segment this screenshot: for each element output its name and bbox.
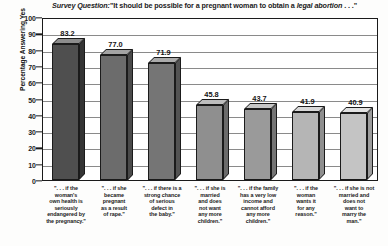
y-tick-label: 60 xyxy=(10,80,36,87)
x-axis-category-line: man." xyxy=(327,218,381,225)
x-axis-category-line: any more xyxy=(231,211,285,218)
bar-side-face xyxy=(271,103,277,180)
y-tick-label: 50 xyxy=(10,96,36,103)
x-axis-category-line: not want xyxy=(183,205,237,212)
x-axis-category-line: ". . . if she xyxy=(87,185,141,192)
bar: 43.7 xyxy=(244,109,271,180)
chart-title-quote-open: "It should be possible for a pregnant wo… xyxy=(110,1,297,10)
x-axis-category-line: defect in xyxy=(135,205,189,212)
x-axis-category-line: wants it xyxy=(279,198,333,205)
x-axis-category-line: as a result xyxy=(87,205,141,212)
x-axis-category-line: does not xyxy=(327,198,381,205)
x-axis-category-label: ". . . if thewoman'sown health isserious… xyxy=(39,185,93,225)
bar: 83.2 xyxy=(52,44,79,180)
x-axis-category-line: seriously xyxy=(39,205,93,212)
y-tick-label: 90 xyxy=(10,31,36,38)
y-tick-label: 30 xyxy=(10,129,36,136)
chart-title-emphasis: legal abortion xyxy=(297,1,343,10)
x-axis-category-line: own health is xyxy=(39,198,93,205)
x-axis-category-label: ". . . if shebecamepregnantas a resultof… xyxy=(87,185,141,218)
gridline xyxy=(43,35,377,36)
bar-value-label: 71.9 xyxy=(142,48,186,57)
bar-side-face xyxy=(367,107,373,180)
bar-side-face xyxy=(127,48,133,180)
x-axis-category-line: married and xyxy=(327,192,381,199)
y-tick-label: 80 xyxy=(10,47,36,54)
plot-area: 83.277.071.945.843.741.940.9 xyxy=(42,18,378,181)
x-axis-category-label: ". . . if she is notmarried anddoes notw… xyxy=(327,185,381,225)
x-axis-category-label: ". . . if there is astrong chanceof seri… xyxy=(135,185,189,218)
bar-value-label: 77.0 xyxy=(94,40,138,49)
bar-value-label: 45.8 xyxy=(190,90,234,99)
x-axis-category-line: ". . . if the family xyxy=(231,185,285,192)
survey-bar-chart: Survey Question:"It should be possible f… xyxy=(0,0,388,246)
bar: 77.0 xyxy=(100,55,127,181)
x-axis-category-line: of rape." xyxy=(87,211,141,218)
x-axis-category-line: endangered by xyxy=(39,211,93,218)
x-axis-category-line: became xyxy=(87,192,141,199)
x-axis-category-line: woman's xyxy=(39,192,93,199)
x-axis-category-line: the baby." xyxy=(135,211,189,218)
gridline xyxy=(43,84,377,85)
bar-front-face xyxy=(340,113,367,180)
bar-side-face xyxy=(175,57,181,180)
y-tick-label: 40 xyxy=(10,112,36,119)
bar-front-face xyxy=(196,105,223,180)
x-axis-category-label: ". . . if the familyhas a very lowincome… xyxy=(231,185,285,225)
x-axis-category-line: children." xyxy=(183,218,237,225)
x-axis-category-line: ". . . if she is xyxy=(183,185,237,192)
bar-front-face xyxy=(52,44,79,180)
gridline xyxy=(43,68,377,69)
y-tick-label: 20 xyxy=(10,145,36,152)
bar: 71.9 xyxy=(148,63,175,180)
x-axis-category-line: for any xyxy=(279,205,333,212)
bar-value-label: 43.7 xyxy=(238,94,282,103)
bar-side-face xyxy=(223,99,229,180)
gridline xyxy=(43,52,377,53)
x-axis-category-line: the pregnancy." xyxy=(39,218,93,225)
bar: 40.9 xyxy=(340,113,367,180)
bar-side-face xyxy=(79,38,85,180)
x-axis-category-line: children." xyxy=(231,218,285,225)
x-axis-category-line: ". . . if the xyxy=(39,185,93,192)
x-axis-category-line: reason." xyxy=(279,211,333,218)
x-axis-category-line: strong chance xyxy=(135,192,189,199)
bar-front-face xyxy=(244,109,271,180)
x-axis-category-line: woman xyxy=(279,192,333,199)
bar-front-face xyxy=(292,112,319,180)
x-axis-category-line: has a very low xyxy=(231,192,285,199)
bar-value-label: 83.2 xyxy=(46,29,90,38)
x-axis-category-line: pregnant xyxy=(87,198,141,205)
chart-title-quote-close: . . ." xyxy=(342,1,357,10)
bar-value-label: 40.9 xyxy=(334,98,378,107)
bar-front-face xyxy=(148,63,175,180)
x-axis-category-line: and does xyxy=(183,198,237,205)
bar-value-label: 41.9 xyxy=(286,97,330,106)
x-axis-category-line: ". . . if there is a xyxy=(135,185,189,192)
x-axis-category-label: ". . . if thewomanwants itfor anyreason.… xyxy=(279,185,333,218)
bar-front-face xyxy=(100,55,127,181)
x-axis-category-line: cannot afford xyxy=(231,205,285,212)
x-axis-category-line: ". . . if she is not xyxy=(327,185,381,192)
bar-side-face xyxy=(319,105,325,180)
x-axis-category-line: marry the xyxy=(327,211,381,218)
x-axis-category-line: of serious xyxy=(135,198,189,205)
x-axis-category-line: want to xyxy=(327,205,381,212)
y-tick-label: 70 xyxy=(10,63,36,70)
y-tick-label: 10 xyxy=(10,161,36,168)
x-axis-category-line: ". . . if the xyxy=(279,185,333,192)
x-axis-category-line: income and xyxy=(231,198,285,205)
chart-title-lead: Survey Question: xyxy=(52,1,110,10)
x-axis-category-line: married xyxy=(183,192,237,199)
chart-title: Survey Question:"It should be possible f… xyxy=(52,1,384,10)
bar: 45.8 xyxy=(196,105,223,180)
y-tick-label: 0 xyxy=(10,178,36,185)
x-axis-category-line: any more xyxy=(183,211,237,218)
bar: 41.9 xyxy=(292,112,319,180)
y-tick-label: 100 xyxy=(10,15,36,22)
x-axis-category-label: ". . . if she ismarriedand doesnot wanta… xyxy=(183,185,237,225)
